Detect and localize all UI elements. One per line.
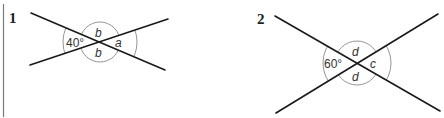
- figure-2: 2 60° d d c: [257, 11, 440, 113]
- figure-2-number: 2: [257, 11, 265, 27]
- figure-2-label-c: c: [370, 57, 376, 71]
- figure-1-label-top-b: b: [95, 26, 102, 40]
- figure-1-label-a: a: [115, 36, 122, 50]
- figure-2-angle-60: 60°: [324, 57, 342, 71]
- figure-1: 1 40° b b a: [9, 5, 168, 79]
- figure-2-label-bottom-d: d: [352, 70, 359, 84]
- figure-2-line-d: [276, 14, 438, 113]
- angles-diagram: 1 40° b b a 2 60° d d c: [0, 0, 444, 118]
- figure-1-angle-40: 40°: [66, 36, 84, 50]
- figure-1-number: 1: [9, 10, 17, 26]
- figure-1-label-bottom-b: b: [95, 46, 102, 60]
- figure-2-label-top-d: d: [352, 45, 359, 59]
